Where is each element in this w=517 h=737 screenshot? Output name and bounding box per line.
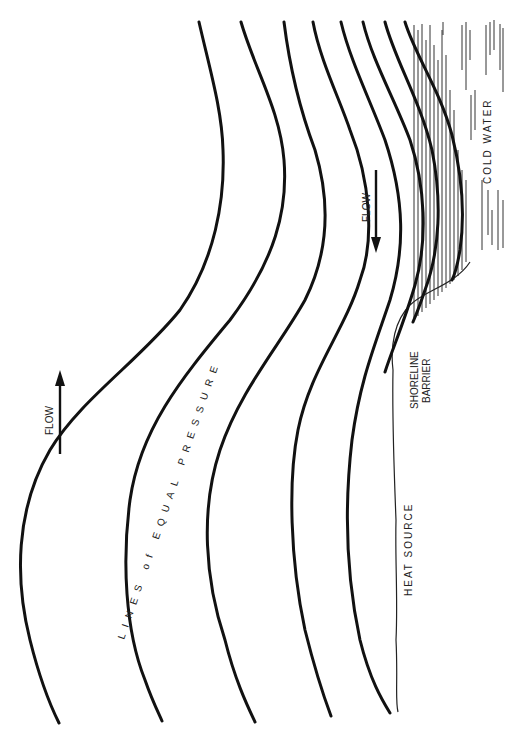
- shoreline-barrier-line: [392, 262, 470, 712]
- arrow-up-icon: [55, 370, 65, 386]
- pressure-flow-diagram: FLOW FLOW LINES of EQUAL PRESSURE HEAT S…: [0, 0, 517, 737]
- isobar-3: [207, 22, 325, 722]
- shoreline-label-line1: SHORELINE: [409, 351, 420, 409]
- flow-label-left: FLOW: [44, 406, 55, 435]
- isobar-4: [292, 22, 369, 716]
- flow-arrow-right: [371, 170, 381, 253]
- heat-source-label: HEAT SOURCE: [403, 503, 414, 596]
- flow-label-right: FLOW: [361, 193, 372, 222]
- arrow-down-icon: [371, 237, 381, 253]
- shoreline-label-line2: BARRIER: [421, 359, 432, 403]
- cold-water-label: COLD WATER: [482, 98, 493, 184]
